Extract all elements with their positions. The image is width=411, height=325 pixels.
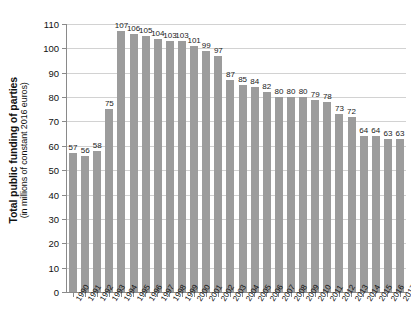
bar-slot[interactable]: 106 bbox=[128, 24, 140, 292]
y-tick-mark bbox=[62, 268, 66, 269]
bar[interactable] bbox=[275, 97, 283, 292]
bar[interactable] bbox=[372, 136, 380, 292]
bar[interactable] bbox=[117, 31, 125, 292]
bar-value-label: 79 bbox=[311, 90, 320, 99]
bar-slot[interactable]: 63 bbox=[394, 24, 406, 292]
y-tick-label: 20 bbox=[48, 238, 59, 249]
bar[interactable] bbox=[166, 41, 174, 292]
bar-slot[interactable]: 58 bbox=[91, 24, 103, 292]
bar[interactable] bbox=[311, 100, 319, 292]
bar[interactable] bbox=[105, 109, 113, 292]
y-tick-mark bbox=[62, 219, 66, 220]
bar[interactable] bbox=[130, 34, 138, 292]
bar-slot[interactable]: 64 bbox=[370, 24, 382, 292]
bar-value-label: 58 bbox=[93, 141, 102, 150]
bar-slot[interactable]: 103 bbox=[164, 24, 176, 292]
bar-value-label: 84 bbox=[250, 77, 259, 86]
bar-value-label: 80 bbox=[299, 87, 308, 96]
bar[interactable] bbox=[251, 87, 259, 292]
x-label-slot: 2006 bbox=[261, 298, 273, 325]
x-label-slot: 1999 bbox=[176, 298, 188, 325]
bar-slot[interactable]: 97 bbox=[212, 24, 224, 292]
x-label-slot: 1997 bbox=[152, 298, 164, 325]
x-axis-labels: 1990199119921993199419951996199719981999… bbox=[67, 298, 406, 325]
bar-slot[interactable]: 104 bbox=[152, 24, 164, 292]
bar-slot[interactable]: 73 bbox=[333, 24, 345, 292]
bar-slot[interactable]: 72 bbox=[346, 24, 358, 292]
y-axis-title-main: Total public funding of parties bbox=[7, 77, 19, 224]
y-tick-label: 80 bbox=[48, 92, 59, 103]
bar-slot[interactable]: 79 bbox=[309, 24, 321, 292]
bar-value-label: 63 bbox=[396, 129, 405, 138]
bar[interactable] bbox=[239, 85, 247, 292]
bar-slot[interactable]: 63 bbox=[382, 24, 394, 292]
bar-slot[interactable]: 87 bbox=[224, 24, 236, 292]
bar-slot[interactable]: 85 bbox=[237, 24, 249, 292]
x-label-slot: 1990 bbox=[67, 298, 79, 325]
x-label-slot: 1993 bbox=[103, 298, 115, 325]
x-label-slot: 1992 bbox=[91, 298, 103, 325]
bar[interactable] bbox=[348, 117, 356, 292]
bar[interactable] bbox=[384, 139, 392, 292]
bar[interactable] bbox=[154, 39, 162, 292]
bar-value-label: 75 bbox=[105, 99, 114, 108]
bar-slot[interactable]: 80 bbox=[273, 24, 285, 292]
bar-slot[interactable]: 75 bbox=[103, 24, 115, 292]
plot-area: 1101009080706050403020100 57565875107106… bbox=[66, 24, 406, 292]
y-tick-mark bbox=[62, 97, 66, 98]
y-tick-mark bbox=[62, 170, 66, 171]
bar-slot[interactable]: 84 bbox=[249, 24, 261, 292]
bar-slot[interactable]: 101 bbox=[188, 24, 200, 292]
x-label-slot: 2011 bbox=[321, 298, 333, 325]
y-tick-mark bbox=[62, 243, 66, 244]
bar-value-label: 99 bbox=[202, 41, 211, 50]
bar-value-label: 97 bbox=[214, 46, 223, 55]
y-tick-mark bbox=[62, 121, 66, 122]
y-tick-mark bbox=[62, 24, 66, 25]
bar[interactable] bbox=[263, 92, 271, 292]
x-label-slot: 2013 bbox=[346, 298, 358, 325]
x-label-slot: 2008 bbox=[285, 298, 297, 325]
bar[interactable] bbox=[299, 97, 307, 292]
bar-value-label: 56 bbox=[81, 146, 90, 155]
y-tick-mark bbox=[62, 146, 66, 147]
bar-value-label: 80 bbox=[287, 87, 296, 96]
x-label-slot: 2007 bbox=[273, 298, 285, 325]
bar-slot[interactable]: 78 bbox=[321, 24, 333, 292]
bar[interactable] bbox=[287, 97, 295, 292]
bar[interactable] bbox=[335, 114, 343, 292]
bar[interactable] bbox=[69, 153, 77, 292]
bar-slot[interactable]: 99 bbox=[200, 24, 212, 292]
bar[interactable] bbox=[178, 41, 186, 292]
bar-value-label: 63 bbox=[383, 129, 392, 138]
bar[interactable] bbox=[142, 36, 150, 292]
bar-slot[interactable]: 56 bbox=[79, 24, 91, 292]
bar[interactable] bbox=[226, 80, 234, 292]
x-label-slot: 2012 bbox=[333, 298, 345, 325]
bar-slot[interactable]: 105 bbox=[140, 24, 152, 292]
bar-slot[interactable]: 57 bbox=[67, 24, 79, 292]
bar[interactable] bbox=[323, 102, 331, 292]
bar-slot[interactable]: 107 bbox=[115, 24, 127, 292]
bar-value-label: 64 bbox=[359, 126, 368, 135]
bar-value-label: 80 bbox=[274, 87, 283, 96]
y-tick-label: 0 bbox=[54, 287, 59, 298]
y-tick-label: 40 bbox=[48, 189, 59, 200]
bar-chart: Total public funding of parties (in mill… bbox=[0, 0, 411, 325]
bar-slot[interactable]: 64 bbox=[358, 24, 370, 292]
bar[interactable] bbox=[202, 51, 210, 292]
bar-slot[interactable]: 80 bbox=[285, 24, 297, 292]
bar-slot[interactable]: 80 bbox=[297, 24, 309, 292]
y-tick-label: 100 bbox=[43, 43, 59, 54]
y-tick-mark bbox=[62, 292, 66, 293]
bar[interactable] bbox=[360, 136, 368, 292]
bar-slot[interactable]: 103 bbox=[176, 24, 188, 292]
bar[interactable] bbox=[81, 156, 89, 292]
bar[interactable] bbox=[396, 139, 404, 292]
bar[interactable] bbox=[93, 151, 101, 292]
bar-slot[interactable]: 82 bbox=[261, 24, 273, 292]
bar-value-label: 85 bbox=[238, 75, 247, 84]
bar[interactable] bbox=[190, 46, 198, 292]
y-tick-label: 110 bbox=[44, 19, 59, 30]
bar[interactable] bbox=[214, 56, 222, 292]
